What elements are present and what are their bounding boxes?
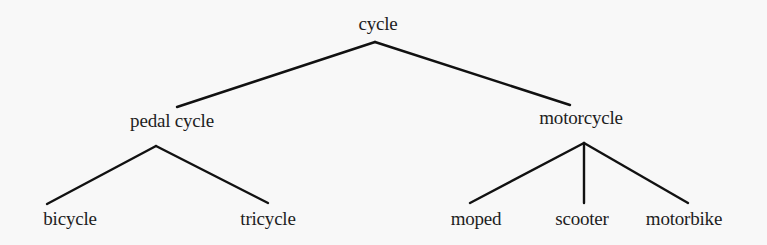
edge-motorcycle-moped [470,143,584,203]
node-pedal-cycle: pedal cycle [130,111,214,130]
node-bicycle: bicycle [43,209,96,228]
node-scooter: scooter [555,209,608,228]
node-motorbike: motorbike [646,209,722,228]
edge-cycle-pedal-cycle [177,42,375,107]
node-cycle: cycle [358,14,397,33]
edge-pedal-cycle-tricycle [156,146,268,203]
node-moped: moped [451,209,502,228]
node-tricycle: tricycle [240,209,295,228]
edge-pedal-cycle-bicycle [47,146,156,204]
node-motorcycle: motorcycle [539,108,622,127]
edge-motorcycle-motorbike [584,143,688,203]
edge-cycle-motorcycle [375,42,570,105]
